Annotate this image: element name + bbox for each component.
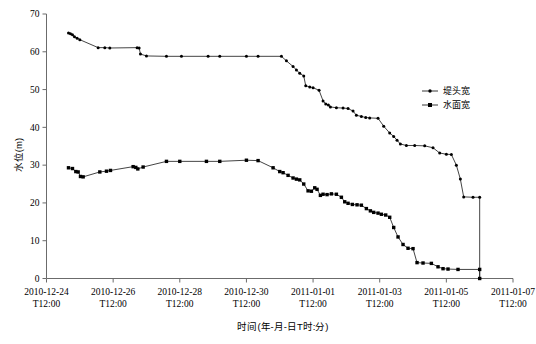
data-point-marker-square (446, 267, 449, 270)
data-point-marker-dot (285, 59, 288, 62)
data-point-marker-dot (455, 164, 458, 167)
data-point-marker-square (218, 160, 221, 163)
data-point-marker-square (136, 167, 139, 170)
data-point-marker-square (380, 213, 383, 216)
data-point-marker-dot (304, 84, 307, 87)
data-point-marker-square (343, 200, 346, 203)
data-point-marker-dot (405, 144, 408, 147)
data-point-marker-dot (396, 139, 399, 142)
data-point-marker-square (335, 193, 338, 196)
data-point-marker-square (456, 268, 459, 271)
data-point-marker-dot (478, 196, 481, 199)
data-point-marker-dot (138, 47, 141, 50)
data-point-marker-square (478, 268, 481, 271)
x-tick-label-time: T12:00 (166, 299, 194, 309)
data-point-marker-dot (295, 68, 298, 71)
data-point-marker-dot (388, 132, 391, 135)
legend-label: 堤头宽 (443, 85, 470, 96)
data-point-marker-square (351, 203, 354, 206)
data-point-marker-square (98, 170, 101, 173)
data-point-marker-dot (165, 55, 168, 58)
data-point-marker-dot (423, 144, 426, 147)
x-tick-label-date: 2010-12-28 (158, 287, 203, 297)
data-point-marker-dot (392, 135, 395, 138)
data-point-marker-square (245, 159, 248, 162)
data-point-marker-dot (413, 144, 416, 147)
data-point-marker-square (365, 207, 368, 210)
data-point-marker-square (295, 177, 298, 180)
x-tick-label-date: 2011-01-03 (358, 287, 402, 297)
data-point-marker-square (205, 160, 208, 163)
data-point-marker-square (372, 211, 375, 214)
data-point-marker-square (330, 192, 333, 195)
data-point-marker-dot (450, 153, 453, 156)
x-tick-label-time: T12:00 (233, 299, 261, 309)
data-point-marker-dot (302, 74, 305, 77)
chart-legend: 堤头宽水面宽 (422, 85, 470, 110)
data-point-marker-square (286, 174, 289, 177)
data-point-marker-square (421, 261, 424, 264)
data-point-marker-square (67, 166, 70, 169)
data-point-marker-square (105, 169, 108, 172)
data-point-marker-dot (459, 178, 462, 181)
data-point-marker-dot (108, 47, 111, 50)
data-point-marker-dot (318, 89, 321, 92)
series-line (68, 33, 479, 279)
legend-marker-dot (428, 89, 431, 92)
y-axis-title: 水位(m) (13, 138, 24, 172)
data-point-marker-square (376, 211, 379, 214)
data-point-marker-dot (342, 107, 345, 110)
data-point-marker-dot (218, 55, 221, 58)
legend-item-1[interactable]: 堤头宽 (422, 85, 470, 96)
y-tick-label: 20 (30, 198, 40, 208)
data-point-marker-square (388, 216, 391, 219)
x-tick-label-date: 2010-12-24 (24, 287, 69, 297)
data-point-marker-dot (78, 38, 81, 41)
series-line (68, 160, 479, 278)
data-point-marker-dot (352, 110, 355, 113)
data-point-marker-dot (462, 195, 465, 198)
data-point-marker-square (436, 265, 439, 268)
data-point-marker-dot (364, 116, 367, 119)
data-point-marker-square (315, 188, 318, 191)
data-point-marker-square (298, 178, 301, 181)
chart-series-group (67, 31, 482, 280)
y-tick-label: 50 (30, 85, 40, 95)
chart-series-2 (67, 159, 482, 281)
data-point-marker-dot (180, 55, 183, 58)
chart-axes (47, 14, 514, 279)
data-point-marker-dot (399, 142, 402, 145)
data-point-marker-square (271, 166, 274, 169)
data-point-marker-square (291, 176, 294, 179)
x-tick-label-date: 2010-12-26 (91, 287, 136, 297)
legend-marker-square (428, 103, 432, 107)
data-point-marker-square (109, 169, 112, 172)
data-point-marker-square (360, 203, 363, 206)
data-point-marker-square (369, 209, 372, 212)
legend-label: 水面宽 (443, 99, 470, 110)
legend-item-2[interactable]: 水面宽 (422, 99, 470, 110)
data-point-marker-dot (472, 196, 475, 199)
data-point-marker-dot (145, 54, 148, 57)
data-point-marker-square (81, 175, 84, 178)
data-point-marker-dot (377, 117, 380, 120)
data-point-marker-dot (73, 35, 76, 38)
data-point-marker-dot (360, 115, 363, 118)
data-point-marker-square (384, 213, 387, 216)
data-point-marker-square (478, 277, 481, 280)
data-point-marker-square (355, 203, 358, 206)
data-point-marker-dot (312, 86, 315, 89)
data-point-marker-square (165, 160, 168, 163)
data-point-marker-dot (432, 146, 435, 149)
y-tick-label: 60 (30, 47, 40, 57)
y-tick-label: 40 (30, 123, 40, 133)
y-axis-tick-labels: 010203040506070 (30, 9, 40, 284)
data-point-marker-dot (347, 107, 350, 110)
data-point-marker-square (325, 193, 328, 196)
data-point-marker-square (302, 182, 305, 185)
data-point-marker-square (346, 202, 349, 205)
data-point-marker-square (392, 226, 395, 229)
data-point-marker-square (411, 247, 414, 250)
data-point-marker-square (278, 170, 281, 173)
data-point-marker-square (441, 267, 444, 270)
